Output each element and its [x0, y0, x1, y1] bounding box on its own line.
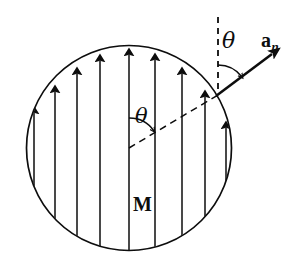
- magnetized-sphere-diagram: [0, 0, 305, 275]
- theta-surface-label: θ: [222, 30, 235, 52]
- magnetization-field-lines: [34, 55, 226, 251]
- normal-vector-arrow: [216, 54, 272, 96]
- figure-container: θ θ M an: [0, 0, 305, 275]
- theta-surface-arc: [218, 65, 242, 77]
- normal-vector-subscript: n: [272, 39, 279, 54]
- magnetization-label: M: [133, 194, 152, 214]
- normal-vector-base: a: [261, 29, 271, 51]
- theta-center-label: θ: [135, 106, 148, 127]
- normal-vector-label: an: [261, 30, 279, 53]
